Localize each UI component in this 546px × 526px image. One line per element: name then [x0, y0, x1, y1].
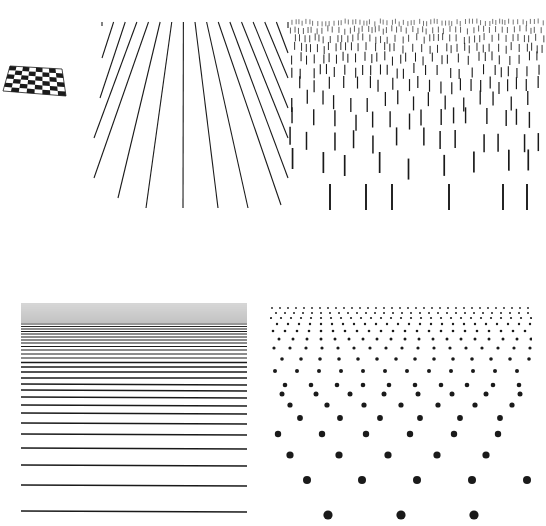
vertical-dashes-panel — [288, 14, 546, 216]
radiating-lines-panel — [88, 18, 294, 213]
dot-grid-graphic — [270, 296, 532, 526]
horizontal-lines-graphic — [20, 300, 250, 515]
checkerboard-panel — [0, 60, 70, 100]
horizontal-lines-panel — [20, 300, 250, 515]
vertical-dashes-graphic — [288, 14, 546, 216]
radiating-lines-graphic — [88, 18, 294, 213]
checkerboard-graphic — [0, 60, 70, 100]
dot-grid-panel — [270, 296, 532, 526]
